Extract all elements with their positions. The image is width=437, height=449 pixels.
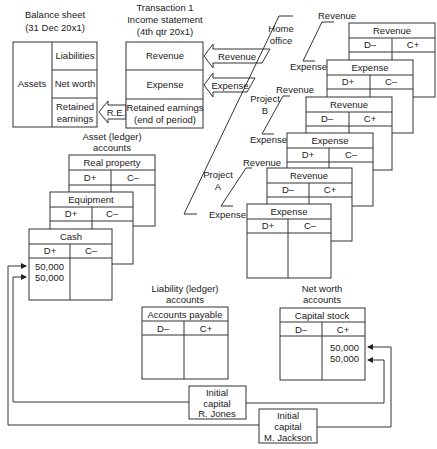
balance-sheet-title: Balance sheet [25,9,86,20]
retained-earnings-label-2: earnings [57,113,94,124]
credit-header: C– [345,149,358,160]
credit-header: C– [385,76,398,87]
debit-header: D– [295,324,308,335]
liabilities-label: Liabilities [55,50,94,61]
jones-line1: Initial [206,387,228,398]
liability-group-label-2: accounts [166,294,204,305]
home-office-label-2: office [270,35,293,46]
credit-header: C– [127,172,140,183]
t-account-cash: Cash D+ C– 50,000 50,000 [29,229,112,300]
credit-header: C+ [324,184,337,195]
networth-group-label: Net worth [302,283,343,294]
balance-sheet-date: (31 Dec 20x1) [25,22,85,33]
retained-earnings-label: Retained [56,101,94,112]
asset-group-label: Asset (ledger) [82,131,141,142]
credit-header: C+ [337,324,350,335]
debit-header: D– [282,184,295,195]
debit-header: D+ [342,76,355,87]
t-account-title: Expense [271,206,308,217]
debit-header: D– [321,113,334,124]
t-account-title: Accounts payable [148,309,223,320]
is-revenue-label: Revenue [146,50,184,61]
income-statement-title: Income statement [127,14,203,25]
home-office-label: Home [268,23,293,34]
t-account-title: Revenue [373,25,411,36]
project-a-label: Project [203,169,233,180]
credit-header: C– [85,245,98,256]
pa-expense-label: Expense [209,209,246,220]
t-account-accounts-payable: Accounts payable D– C+ [142,307,228,379]
balance-sheet: Balance sheet (31 Dec 20x1) Assets Liabi… [13,9,97,127]
t-account-title: Equipment [68,194,114,205]
t-account-title: Cash [60,231,82,242]
pa-revenue-label: Revenue [243,157,281,168]
capital-credit-entry: 50,000 [330,353,359,364]
cash-debit-entry: 50,000 [35,272,64,283]
t-account-title: Revenue [290,170,328,181]
t-account-capital-stock: Capital stock D– C+ 50,000 50,000 [280,308,365,380]
debit-header: D+ [84,172,97,183]
asset-group-label-2: accounts [93,142,131,153]
credit-header: C+ [407,39,420,50]
ho-revenue-label: Revenue [318,10,356,21]
income-statement: Transaction 1 Income statement (4th qtr … [126,2,204,128]
net-worth-label: Net worth [55,78,96,89]
transaction-jones: Initial capital R. Jones [189,386,246,419]
re-arrow-label: R.E. [107,107,125,118]
pb-revenue-label: Revenue [276,84,314,95]
expense-arrow-label: Expense [212,80,249,91]
networth-group-label-2: accounts [303,294,341,305]
project-b-label-2: B [262,105,268,116]
transaction-jackson: Initial capital M. Jackson [259,409,317,443]
credit-header: C– [106,208,119,219]
jackson-line2: capital [274,421,301,432]
liability-group-label: Liability (ledger) [151,283,218,294]
jackson-name: M. Jackson [264,432,312,443]
t-account-title: Expense [312,135,349,146]
t-account-title: Expense [352,62,389,73]
income-statement-period: (4th qtr 20x1) [137,26,194,37]
capital-credit-entry: 50,000 [330,342,359,353]
debit-header: D+ [262,220,275,231]
debit-header: D+ [65,208,78,219]
expense-arrow: Expense [204,73,255,97]
t-account-title: Revenue [330,99,368,110]
t-account-title: Capital stock [295,310,350,321]
credit-header: C+ [200,323,213,334]
re-arrow: R.E. [99,101,126,123]
credit-header: C+ [364,113,377,124]
debit-header: D– [157,323,170,334]
is-retained-period: (end of period) [134,114,196,125]
debit-header: D+ [302,149,315,160]
assets-label: Assets [18,78,47,89]
accounting-flow-diagram: Balance sheet (31 Dec 20x1) Assets Liabi… [0,0,437,449]
income-statement-transaction: Transaction 1 [136,2,193,13]
pb-expense-label: Expense [250,134,287,145]
ho-expense-label: Expense [290,61,327,72]
jones-name: R. Jones [198,408,236,419]
is-retained-label: Retained earnings [126,102,203,113]
revenue-arrow-label: Revenue [218,51,256,62]
debit-header: D+ [44,245,57,256]
jackson-line1: Initial [277,410,299,421]
credit-header: C– [304,220,317,231]
t-account-title: Real property [83,157,140,168]
debit-header: D– [364,39,377,50]
is-expense-label: Expense [147,79,184,90]
project-a-label-2: A [215,181,222,192]
t-account-pa-expense: Expense D+ C– [247,204,331,278]
cash-debit-entry: 50,000 [35,261,64,272]
